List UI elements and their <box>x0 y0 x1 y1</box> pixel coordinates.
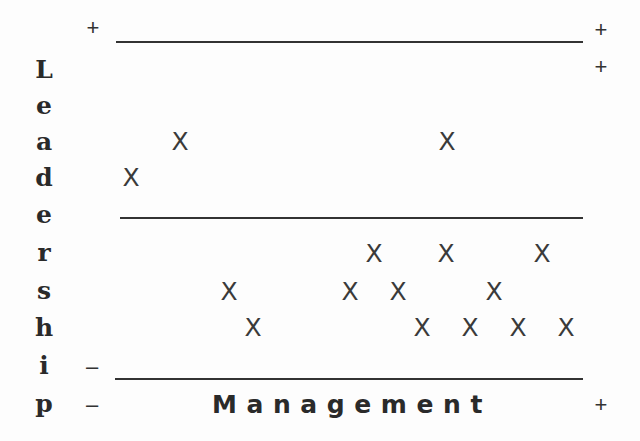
y-label-letter: h <box>33 313 55 343</box>
data-point-x: X <box>554 315 578 341</box>
left-minus-sign: – <box>82 394 102 416</box>
data-point-x: X <box>458 315 482 341</box>
y-label-letter: d <box>33 163 55 193</box>
data-point-x: X <box>410 315 434 341</box>
top-reference-line <box>116 41 583 43</box>
data-point-x: X <box>434 241 458 267</box>
data-point-x: X <box>241 315 265 341</box>
leadership-management-chart: L e a d e r s h i p + + + – – + X X X X … <box>0 0 640 441</box>
right-plus-sign: + <box>591 56 611 78</box>
data-point-x: X <box>217 279 241 305</box>
y-label-letter: i <box>33 351 55 381</box>
top-right-plus-sign: + <box>591 19 611 41</box>
y-label-letter: r <box>33 238 55 268</box>
data-point-x: X <box>530 241 554 267</box>
y-label-letter: a <box>33 127 55 157</box>
y-label-letter: p <box>33 389 55 419</box>
y-label-letter: e <box>33 200 55 230</box>
data-point-x: X <box>386 279 410 305</box>
y-label-letter: L <box>33 55 55 85</box>
data-point-x: X <box>168 129 192 155</box>
data-point-x: X <box>338 279 362 305</box>
x-axis-label: Management <box>212 390 492 420</box>
data-point-x: X <box>119 165 143 191</box>
data-point-x: X <box>435 129 459 155</box>
bottom-reference-line <box>115 378 583 380</box>
middle-reference-line <box>120 217 583 219</box>
left-minus-sign: – <box>82 356 102 378</box>
top-left-plus-sign: + <box>83 17 103 39</box>
data-point-x: X <box>506 315 530 341</box>
data-point-x: X <box>362 241 386 267</box>
data-point-x: X <box>482 279 506 305</box>
y-label-letter: e <box>33 91 55 121</box>
y-label-letter: s <box>33 276 55 306</box>
bottom-right-plus-sign: + <box>591 394 611 416</box>
